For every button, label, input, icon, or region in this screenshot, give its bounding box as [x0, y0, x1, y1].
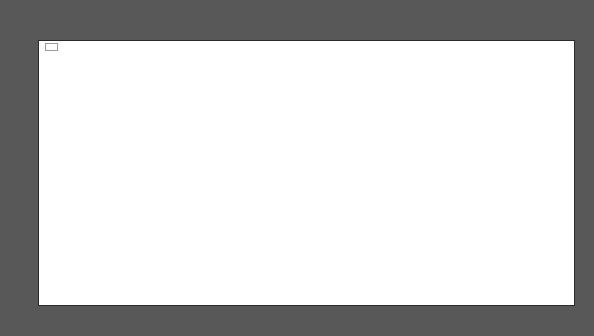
chart-window	[0, 0, 594, 336]
plot-area[interactable]	[38, 40, 575, 306]
y-axis-ticks	[0, 40, 38, 306]
spectrum-plot	[39, 41, 574, 305]
series-legend-box[interactable]	[45, 43, 58, 51]
bottom-axis-ticks	[38, 0, 575, 1]
